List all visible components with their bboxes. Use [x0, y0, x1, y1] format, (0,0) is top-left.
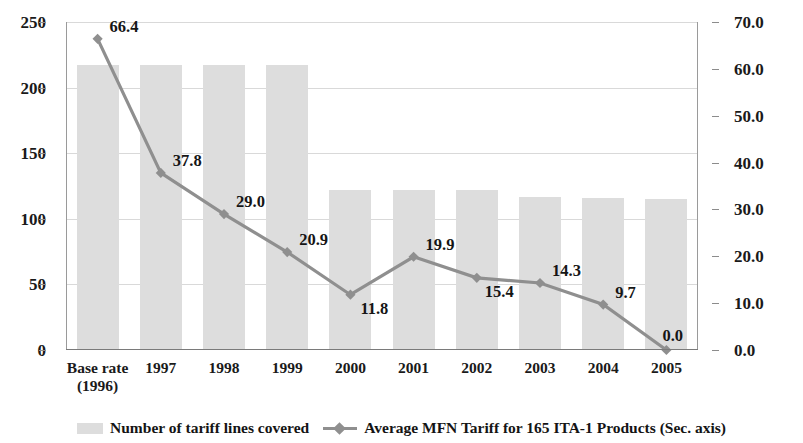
axis-line-bottom	[66, 349, 698, 351]
diamond-marker-icon	[93, 34, 103, 44]
y-axis-left: 050100150200250	[0, 22, 46, 350]
axis-line-left	[66, 22, 67, 350]
chart-container: 050100150200250 0.010.020.030.040.050.06…	[0, 0, 803, 443]
x-axis-category-label: 1997	[129, 359, 192, 377]
data-label: 19.9	[426, 237, 455, 254]
x-axis-category-label: 2001	[382, 359, 445, 377]
data-label: 9.7	[615, 285, 636, 302]
x-axis-category-label: 2000	[319, 359, 382, 377]
diamond-marker-icon	[535, 278, 545, 288]
y-axis-right-tick-label: 50.0	[734, 107, 764, 124]
data-label: 37.8	[173, 153, 202, 170]
y-axis-right-tick	[712, 22, 719, 23]
y-axis-left-tick	[39, 22, 46, 23]
y-axis-left-tick	[39, 153, 46, 154]
legend-item-line: Average MFN Tariff for 165 ITA-1 Product…	[323, 419, 726, 437]
legend-label-bars: Number of tariff lines covered	[110, 419, 309, 437]
x-axis-category-label: 1999	[256, 359, 319, 377]
y-axis-right-tick	[712, 209, 719, 210]
y-axis-right-tick	[712, 350, 719, 351]
legend-label-line: Average MFN Tariff for 165 ITA-1 Product…	[364, 419, 726, 437]
y-axis-right-tick-label: 20.0	[734, 248, 764, 265]
y-axis-right-tick	[712, 69, 719, 70]
x-axis-category-label: 2004	[572, 359, 635, 377]
chart-legend: Number of tariff lines covered Average M…	[0, 414, 803, 442]
x-axis-category-label: Base rate(1996)	[66, 359, 129, 395]
x-axis-category-label: 2003	[508, 359, 571, 377]
data-label: 29.0	[236, 194, 265, 211]
y-axis-right-tick-label: 30.0	[734, 201, 764, 218]
y-axis-left-tick	[39, 350, 46, 351]
y-axis-right-tick	[712, 163, 719, 164]
y-axis-right: 0.010.020.030.040.050.060.070.0	[712, 22, 802, 350]
axis-line-right	[697, 22, 698, 350]
y-axis-left-tick	[39, 88, 46, 89]
data-label: 0.0	[662, 328, 683, 345]
plot-area: 66.437.829.020.911.819.915.414.39.70.0	[66, 22, 698, 350]
data-label: 20.9	[299, 232, 328, 249]
y-axis-left-tick	[39, 219, 46, 220]
y-axis-right-tick-label: 70.0	[734, 14, 764, 31]
y-axis-right-tick	[712, 303, 719, 304]
y-axis-right-tick	[712, 256, 719, 257]
data-label: 11.8	[360, 301, 388, 318]
line-diamond-swatch-icon	[323, 422, 357, 434]
data-label: 14.3	[552, 263, 581, 280]
x-axis-category-label: 2005	[635, 359, 698, 377]
data-label: 15.4	[485, 284, 514, 301]
y-axis-right-tick-label: 0.0	[734, 342, 755, 359]
bar-swatch-icon	[77, 423, 103, 434]
legend-item-bars: Number of tariff lines covered	[77, 419, 309, 437]
x-axis-category-label: 2002	[445, 359, 508, 377]
y-axis-right-tick	[712, 116, 719, 117]
x-axis-categories: Base rate(1996)1997199819992000200120022…	[66, 353, 698, 401]
y-axis-right-tick-label: 60.0	[734, 60, 764, 77]
y-axis-left-tick	[39, 284, 46, 285]
y-axis-right-tick-label: 40.0	[734, 154, 764, 171]
diamond-marker-icon	[472, 273, 482, 283]
x-axis-category-label: 1998	[192, 359, 255, 377]
data-label: 66.4	[110, 19, 139, 36]
y-axis-right-tick-label: 10.0	[734, 295, 764, 312]
